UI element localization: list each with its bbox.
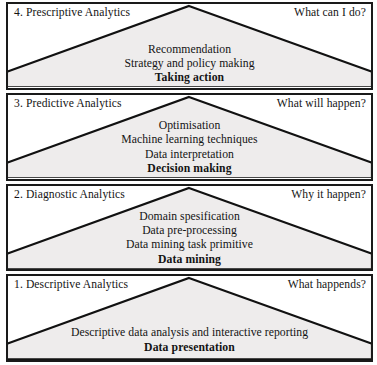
wedge-shape-predictive [7, 95, 372, 178]
level-panel-diagnostic: 2. Diagnostic Analytics Why it happen? D… [6, 184, 373, 272]
level-panel-predictive: 3. Predictive Analytics What will happen… [6, 93, 373, 181]
wedge-shape-prescriptive [7, 4, 372, 87]
level-panel-prescriptive: 4. Prescriptive Analytics What can I do?… [6, 2, 373, 90]
wedge-shape-diagnostic [7, 186, 372, 269]
wedge-shape-descriptive [7, 276, 372, 359]
analytics-pyramid-diagram: 4. Prescriptive Analytics What can I do?… [0, 0, 377, 365]
level-panel-descriptive: 1. Descriptive Analytics What happends? … [6, 274, 373, 362]
